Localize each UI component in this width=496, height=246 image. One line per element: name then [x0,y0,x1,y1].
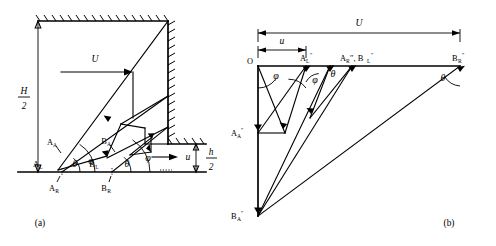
label-theta-a-1: θ [73,158,78,169]
label-theta-b-2: θ [441,72,446,83]
label-phi-a-2: φ [145,152,151,163]
dimension-h-over-2 [193,144,198,172]
label-A-R-a-base: A [49,184,55,193]
right-wall-hatching [168,21,175,137]
label-B-L-a-sub: L [95,164,99,170]
dimension-u-b: u [258,35,306,58]
angle-arcs-b [258,74,460,88]
label-ARBL-b-prime: ″ [371,52,374,58]
label-H-over-2: H 2 [18,86,30,111]
right-wall [168,21,175,144]
label-AA-b-sub: A [237,133,241,139]
hodograph-vectors-b [258,66,460,216]
leader-lines-a [56,145,115,182]
h-over-2-denominator: 2 [209,162,214,172]
dimension-U-b: U [258,17,460,42]
label-A-R-a-sub: R [55,188,59,194]
label-BR-b-sub: R [458,58,462,64]
top-wall [36,15,168,21]
velocity-arrow-u-a: u [152,151,191,162]
label-BA-b-sub: A [237,216,241,222]
point-labels-b: O A L ″ A R ″, B L ″ B R ″ A A ″ B A ″ [231,52,465,222]
label-U-b: U [356,17,364,28]
label-A-L-a-sub: L [39,164,43,170]
label-B-A-a-sub: A [107,141,111,147]
label-phi-b-1: φ [273,70,279,81]
label-theta-b-1: θ [331,68,336,79]
hodograph-arrowheads-b [254,65,465,214]
figure-root: H 2 h 2 U u [0,0,496,246]
label-U-a: U [92,53,100,64]
label-ARBL-b-sub2: L [367,58,371,64]
label-O-b: O [247,57,253,66]
velocity-arrow-U-a: U [61,53,133,75]
caption-panel-a: (a) [35,218,45,229]
label-theta-a-2: θ [125,158,130,169]
label-phi-b-2: φ [312,74,318,85]
H-over-2-numerator: H [20,86,29,96]
top-wall-hatching [36,15,168,21]
ledge-wall [168,138,206,144]
label-AL-b-sub: L [306,58,310,64]
label-AL-b-prime: ″ [310,52,313,58]
label-A-L-a-base: A [33,160,39,169]
h-over-2-numerator: h [209,147,214,157]
ledge-wall-hatching [168,138,204,144]
label-u-b: u [280,35,285,46]
H-over-2-denominator: 2 [22,101,27,111]
label-AA-b-prime: ″ [241,127,244,133]
label-h-over-2: h 2 [206,147,217,172]
label-ARBL-b-mid: ″, B [350,54,364,63]
label-u-a: u [186,151,191,162]
label-A-A-a-sub: A [53,142,57,148]
caption-panel-b: (b) [444,218,455,229]
label-BR-b-prime: ″ [462,52,465,58]
label-BA-b-prime: ″ [241,210,244,216]
label-B-R-a-sub: R [107,188,111,194]
panel-a-diagram: H 2 h 2 U u [0,0,496,246]
dimension-H-over-2 [35,21,41,172]
